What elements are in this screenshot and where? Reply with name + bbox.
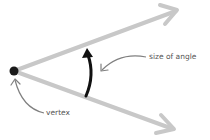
lower-ray-arrow (14, 71, 174, 133)
vertex-label: vertex (46, 109, 70, 117)
angle-diagram: size of angle vertex (0, 0, 210, 140)
angle-diagram-canvas (0, 0, 210, 140)
vertex-dot (10, 67, 19, 76)
upper-ray-arrow (14, 5, 177, 71)
size-of-angle-pointer (101, 56, 146, 71)
size-of-angle-label: size of angle (149, 53, 196, 61)
vertex-pointer (11, 79, 44, 113)
angle-size-arc-arrow (82, 48, 93, 96)
